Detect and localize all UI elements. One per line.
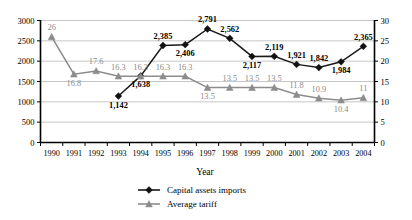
data-label-tariff: 13.5 bbox=[245, 74, 260, 83]
left-y-axis: 050010001500200025003000 bbox=[18, 16, 41, 148]
data-label-imports: 2,791 bbox=[198, 15, 217, 24]
x-tick-label: 2000 bbox=[266, 149, 282, 158]
x-tick-label: 1996 bbox=[177, 149, 193, 158]
data-label-imports: 2,406 bbox=[176, 49, 195, 58]
data-label-tariff: 13.5 bbox=[200, 92, 215, 101]
x-tick-label: 1994 bbox=[133, 149, 149, 158]
x-tick-label: 1992 bbox=[88, 149, 104, 158]
data-label-imports: 2,562 bbox=[220, 25, 239, 34]
x-tick-label: 2002 bbox=[311, 149, 327, 158]
data-label-tariff: 11 bbox=[359, 84, 367, 93]
marker-diamond-icon bbox=[315, 64, 322, 71]
data-label-tariff: 13.5 bbox=[267, 74, 282, 83]
chart-legend: Capital assets importsAverage tariff bbox=[138, 185, 246, 209]
left-tick-label: 1500 bbox=[18, 77, 35, 87]
x-axis-title: Year bbox=[196, 167, 214, 177]
data-label-imports: 1,142 bbox=[109, 101, 128, 110]
data-label-imports: 2,385 bbox=[154, 32, 173, 41]
data-label-tariff: 16.3 bbox=[111, 63, 126, 72]
data-label-imports: 1,842 bbox=[309, 54, 328, 63]
data-label-imports: 1,638 bbox=[131, 80, 150, 89]
data-label-tariff: 10.9 bbox=[312, 85, 327, 94]
data-label-tariff: 16.3 bbox=[133, 63, 148, 72]
data-label-tariff: 11.8 bbox=[289, 81, 303, 90]
data-label-tariff: 16.3 bbox=[156, 63, 171, 72]
right-tick-label: 5 bbox=[381, 117, 385, 127]
data-label-imports: 1,984 bbox=[332, 66, 352, 75]
x-tick-label: 2004 bbox=[355, 149, 371, 158]
right-tick-label: 10 bbox=[381, 97, 390, 107]
right-tick-label: 15 bbox=[381, 77, 390, 87]
left-tick-label: 2500 bbox=[18, 36, 35, 46]
data-label-imports: 2,117 bbox=[243, 61, 261, 70]
data-label-imports: 1,921 bbox=[287, 51, 306, 60]
right-tick-label: 30 bbox=[381, 16, 390, 26]
data-label-imports: 2,119 bbox=[265, 43, 283, 52]
data-label-tariff: 16.8 bbox=[67, 79, 82, 88]
x-tick-label: 1990 bbox=[43, 149, 59, 158]
right-tick-label: 25 bbox=[381, 36, 390, 46]
left-tick-label: 0 bbox=[30, 138, 34, 148]
data-label-imports: 2,365 bbox=[354, 33, 373, 42]
data-label-tariff: 10.4 bbox=[334, 105, 349, 114]
data-label-tariff: 16.3 bbox=[178, 63, 193, 72]
left-tick-label: 2000 bbox=[18, 56, 35, 66]
right-tick-label: 20 bbox=[381, 56, 390, 66]
x-tick-label: 1998 bbox=[222, 149, 238, 158]
marker-triangle-icon bbox=[48, 33, 55, 39]
right-y-axis: 051015202530 bbox=[375, 16, 390, 148]
data-label-tariff: 17.6 bbox=[89, 57, 104, 66]
x-tick-label: 2003 bbox=[333, 149, 349, 158]
data-label-tariff: 13.5 bbox=[222, 74, 237, 83]
line-chart: 050010001500200025003000 051015202530 19… bbox=[0, 0, 412, 220]
data-label-tariff: 26 bbox=[47, 23, 55, 32]
x-tick-label: 2001 bbox=[288, 149, 304, 158]
right-tick-label: 0 bbox=[381, 138, 385, 148]
x-tick-label: 1993 bbox=[110, 149, 126, 158]
chart-container: 050010001500200025003000 051015202530 19… bbox=[0, 0, 412, 220]
marker-diamond-icon bbox=[146, 187, 153, 194]
legend-label: Capital assets imports bbox=[167, 185, 246, 195]
left-tick-label: 500 bbox=[22, 117, 35, 127]
legend-label: Average tariff bbox=[167, 199, 217, 209]
x-tick-label: 1999 bbox=[244, 149, 260, 158]
marker-diamond-icon bbox=[293, 61, 300, 68]
x-axis: 1990199119921993199419951996199719981999… bbox=[41, 143, 375, 158]
left-tick-label: 3000 bbox=[18, 16, 35, 26]
x-tick-label: 1991 bbox=[66, 149, 82, 158]
marker-diamond-icon bbox=[271, 53, 278, 60]
x-tick-label: 1997 bbox=[199, 149, 215, 158]
left-tick-label: 1000 bbox=[18, 97, 35, 107]
x-tick-label: 1995 bbox=[155, 149, 171, 158]
